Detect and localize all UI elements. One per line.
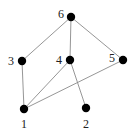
- node-3: [18, 57, 26, 65]
- edge-6-5: [71, 17, 123, 60]
- graph-diagram: 123456: [0, 0, 138, 133]
- node-6: [67, 13, 75, 21]
- node-label-5: 5: [109, 51, 115, 65]
- edge-4-2: [70, 60, 86, 108]
- edge-5-1: [24, 60, 123, 109]
- node-4: [66, 56, 74, 64]
- edge-4-1: [24, 60, 70, 109]
- edge-6-3: [22, 17, 71, 61]
- edge-3-1: [22, 61, 24, 109]
- node-label-4: 4: [56, 53, 62, 67]
- nodes: 123456: [8, 7, 127, 131]
- node-1: [20, 105, 28, 113]
- edge-6-4: [70, 17, 71, 60]
- node-5: [119, 56, 127, 64]
- node-2: [82, 104, 90, 112]
- node-label-3: 3: [8, 54, 14, 68]
- node-label-6: 6: [58, 7, 64, 21]
- node-label-1: 1: [21, 117, 27, 131]
- node-label-2: 2: [83, 117, 89, 131]
